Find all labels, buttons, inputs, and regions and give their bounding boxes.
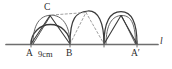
- chord-group-solid: [31, 16, 137, 45]
- label-point-b: B: [66, 49, 72, 59]
- label-point-a: A: [26, 49, 33, 59]
- chord-c-p2: [52, 13, 86, 16]
- arc-b-m: [70, 11, 104, 44]
- chord-a-c-2: [33, 17, 50, 45]
- chord-b-p2: [70, 13, 86, 45]
- chord-c-b: [50, 16, 70, 45]
- arc-m-aprime-inner: [106, 16, 136, 45]
- chord-a-c: [31, 16, 50, 45]
- label-dimension-ab: 9cm: [38, 50, 53, 59]
- chord-p2-m: [86, 13, 104, 45]
- label-point-a-prime: A′: [131, 49, 140, 59]
- geometry-figure: C A 9cm B A′ l: [0, 0, 172, 69]
- label-line-l: l: [160, 37, 163, 47]
- diagram-canvas: [0, 0, 172, 69]
- label-point-c: C: [44, 3, 50, 13]
